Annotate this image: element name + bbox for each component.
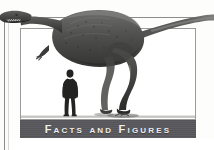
dino-eye xyxy=(15,14,17,16)
frame-top-rule xyxy=(4,17,214,18)
illustration-panel-fill xyxy=(21,29,195,119)
page-bottom-margin xyxy=(9,139,214,150)
figure-container: Facts and Figures xyxy=(0,0,214,150)
facts-and-figures-banner: Facts and Figures xyxy=(20,120,196,138)
banner-label: Facts and Figures xyxy=(45,124,172,135)
frame-left-rule xyxy=(4,17,5,150)
frame-left-inner-rule xyxy=(8,21,9,150)
